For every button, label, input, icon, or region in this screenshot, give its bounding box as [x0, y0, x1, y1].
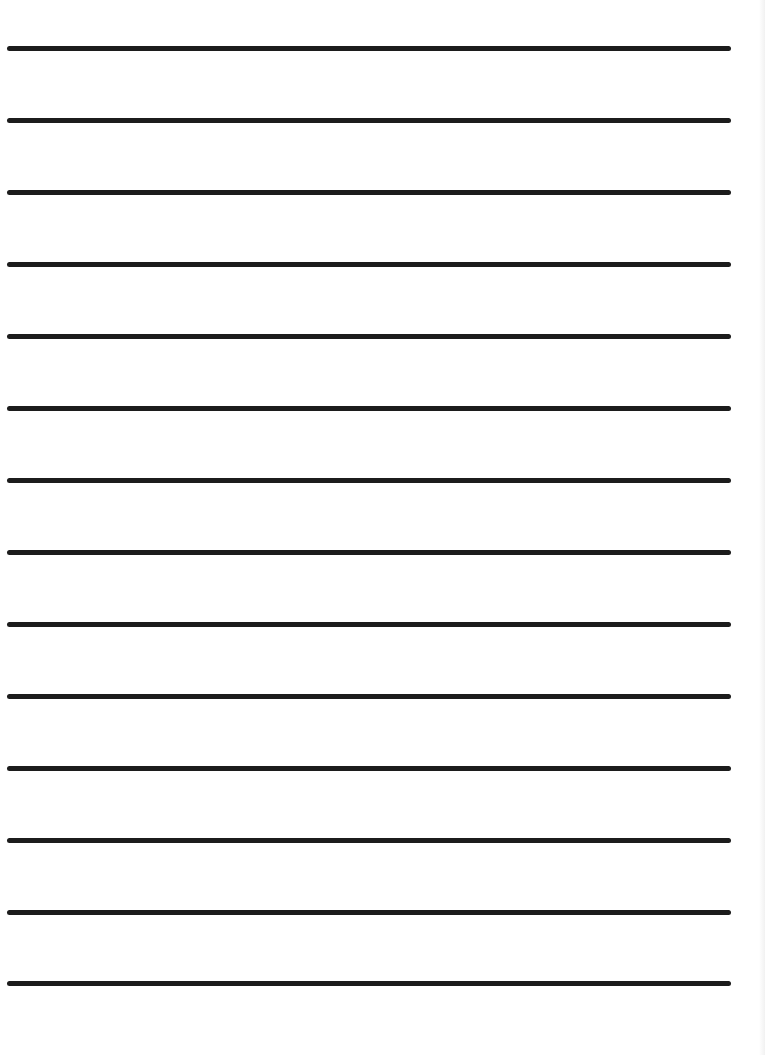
ruled-line: [7, 334, 731, 339]
ruled-line: [7, 622, 731, 627]
ruled-line: [7, 190, 731, 195]
ruled-line: [7, 478, 731, 483]
lined-paper-sheet: [0, 0, 765, 1055]
ruled-line: [7, 981, 731, 986]
page-edge-shadow: [759, 0, 765, 1055]
ruled-line: [7, 838, 731, 843]
ruled-line: [7, 262, 731, 267]
ruled-line: [7, 118, 731, 123]
ruled-line: [7, 694, 731, 699]
ruled-line: [7, 46, 731, 51]
ruled-line: [7, 910, 731, 915]
ruled-line: [7, 406, 731, 411]
ruled-line: [7, 766, 731, 771]
ruled-line: [7, 550, 731, 555]
